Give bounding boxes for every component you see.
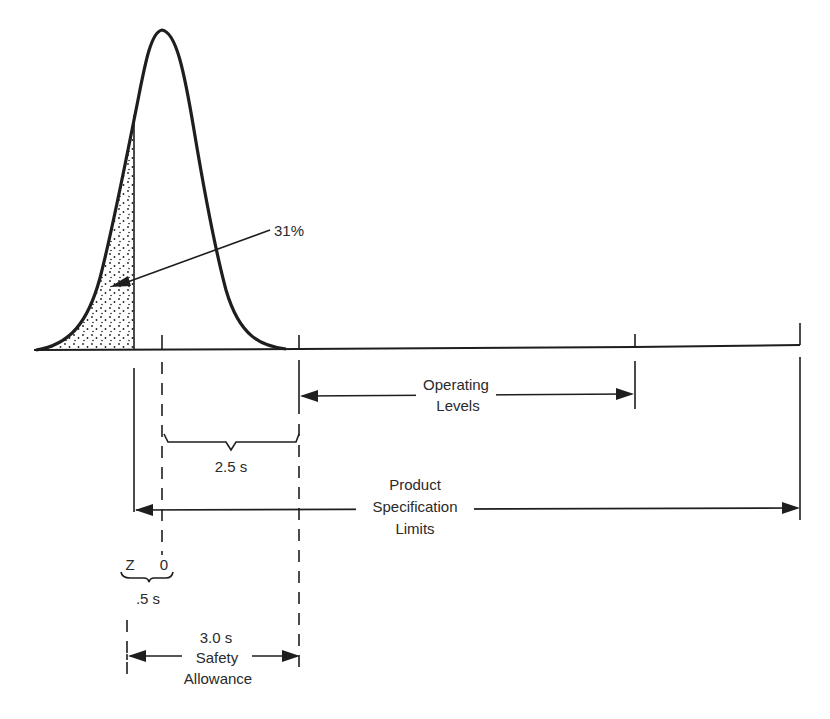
product-label-line2: Specification	[372, 498, 457, 515]
normal-distribution-curve	[36, 30, 286, 350]
brace-0-5s-label: .5 s	[136, 590, 160, 607]
baseline-axis	[34, 345, 800, 350]
operating-label-line2: Levels	[436, 397, 479, 414]
product-right-arrowhead-icon	[782, 502, 800, 514]
operating-right-arrowhead-icon	[616, 388, 634, 400]
z-label: Z	[125, 556, 134, 573]
operating-left-arrowhead-icon	[300, 390, 318, 402]
zero-label: 0	[160, 556, 168, 573]
safety-right-arrowhead-icon	[282, 650, 300, 662]
specification-diagram: 31% Operating Levels 2.5 s Product Speci…	[0, 0, 830, 719]
product-label-line3: Limits	[395, 520, 434, 537]
safety-label-line1: Safety	[196, 649, 239, 666]
brace-2-5s	[164, 434, 299, 450]
percent-leader-line	[122, 230, 270, 284]
percent-label: 31%	[274, 222, 304, 239]
brace-2-5s-label: 2.5 s	[215, 458, 248, 475]
product-left-arrowhead-icon	[135, 504, 153, 516]
operating-label-line1: Operating	[423, 376, 489, 393]
safety-value-label: 3.0 s	[200, 629, 233, 646]
safety-label-line2: Allowance	[184, 670, 252, 687]
safety-left-arrowhead-icon	[128, 650, 146, 662]
product-label-line1: Product	[389, 476, 442, 493]
